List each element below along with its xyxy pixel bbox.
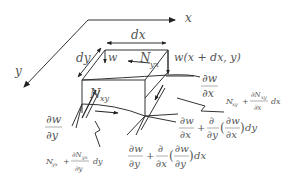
w-label: w bbox=[108, 51, 118, 64]
svg-text:dx: dx bbox=[194, 150, 206, 161]
slope-dw-dy-increment: ∂w ∂y + ∂ ∂x ( ∂w ∂y ) dx bbox=[128, 143, 206, 169]
svg-text:∂x: ∂x bbox=[156, 158, 167, 169]
plate-element-diagram: x y dx dy w w(x + dx, y) N yx bbox=[0, 0, 297, 187]
break-line-bottom bbox=[95, 121, 100, 147]
svg-text:∂w: ∂w bbox=[129, 143, 143, 154]
svg-text:∂w: ∂w bbox=[226, 115, 240, 126]
svg-text:dy: dy bbox=[93, 157, 103, 166]
svg-text:yx: yx bbox=[149, 60, 160, 69]
svg-text:∂x: ∂x bbox=[226, 129, 237, 140]
dx-dimension: dx bbox=[107, 28, 166, 43]
svg-text:(: ( bbox=[169, 149, 174, 163]
dy-label: dy bbox=[76, 51, 91, 65]
svg-text:xy: xy bbox=[232, 101, 238, 108]
svg-text:yx: yx bbox=[51, 161, 58, 168]
svg-text:∂y: ∂y bbox=[175, 158, 186, 169]
y-axis-label: y bbox=[14, 64, 22, 78]
svg-text:): ) bbox=[240, 121, 245, 135]
w-shifted-label: w(x + dx, y) bbox=[174, 51, 241, 64]
svg-text:∂w: ∂w bbox=[175, 143, 189, 154]
midsurface-front-curve bbox=[82, 104, 145, 116]
svg-text:∂: ∂ bbox=[158, 143, 163, 154]
force-Nyx-bottom-label: N yx + ∂N yx ∂y dy bbox=[45, 151, 103, 173]
svg-text:∂x: ∂x bbox=[180, 129, 191, 140]
svg-text:∂w: ∂w bbox=[202, 72, 218, 85]
force-Nxy-left: N xy bbox=[82, 87, 110, 118]
force-Nyx-top: N yx bbox=[128, 51, 160, 69]
svg-text:): ) bbox=[189, 149, 194, 163]
svg-text:+: + bbox=[242, 97, 249, 106]
svg-text:+: + bbox=[146, 150, 154, 161]
dy-dimension: dy bbox=[76, 48, 101, 77]
force-Nyx-bottom-arrow bbox=[95, 111, 118, 113]
deflection-w: w w(x + dx, y) bbox=[105, 50, 241, 74]
svg-text:∂: ∂ bbox=[209, 115, 214, 126]
svg-text:∂w: ∂w bbox=[180, 115, 194, 126]
svg-text:∂w: ∂w bbox=[46, 113, 62, 126]
force-Nxy-right-label: N xy + ∂N xy ∂x dx bbox=[225, 91, 281, 112]
x-axis-label: x bbox=[185, 11, 192, 25]
slope-markers bbox=[72, 76, 194, 135]
slope-dw-dx-increment: ∂w ∂x + ∂ ∂y ( ∂w ∂x ) dy bbox=[179, 115, 257, 140]
svg-text:xy: xy bbox=[261, 94, 267, 101]
svg-text:dx: dx bbox=[271, 97, 281, 106]
svg-text:∂x: ∂x bbox=[202, 87, 215, 100]
svg-text:∂y: ∂y bbox=[207, 129, 218, 140]
svg-text:+: + bbox=[197, 122, 205, 133]
svg-text:+: + bbox=[63, 157, 70, 166]
svg-text:yx: yx bbox=[81, 154, 88, 161]
svg-text:∂y: ∂y bbox=[46, 129, 59, 142]
svg-text:∂y: ∂y bbox=[75, 165, 84, 173]
svg-text:∂y: ∂y bbox=[129, 158, 140, 169]
slope-dw-dy: ∂w ∂y bbox=[45, 113, 62, 142]
svg-text:dy: dy bbox=[245, 122, 257, 133]
slope-dw-dx: ∂w ∂x bbox=[201, 72, 218, 100]
svg-text:(: ( bbox=[220, 121, 225, 135]
break-line-right bbox=[177, 98, 224, 112]
svg-text:xy: xy bbox=[100, 94, 110, 103]
dx-label: dx bbox=[131, 28, 146, 42]
svg-text:∂x: ∂x bbox=[254, 104, 262, 112]
